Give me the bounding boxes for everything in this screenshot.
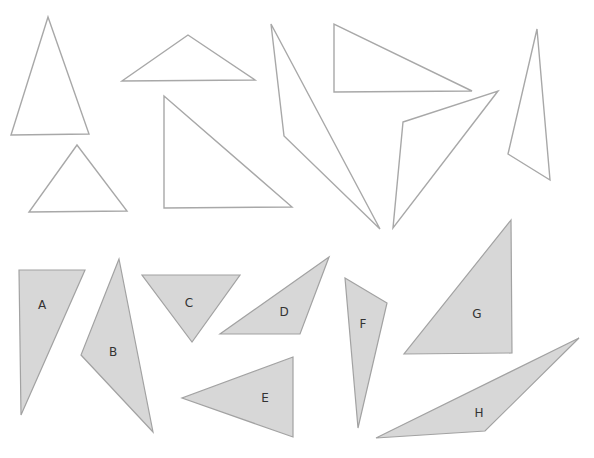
labeled-triangles-group [19, 220, 579, 438]
outline-triangle-7 [393, 91, 498, 228]
triangle-c-label: C [185, 297, 193, 309]
triangle-e [182, 357, 293, 437]
outline-triangles-group [11, 17, 550, 229]
triangle-g [404, 220, 512, 354]
outline-triangle-1 [11, 17, 89, 135]
outline-triangle-3 [122, 35, 255, 81]
triangle-f-label: F [360, 318, 367, 330]
triangle-f [345, 278, 387, 428]
triangle-d [220, 257, 329, 334]
triangle-h-label: H [474, 407, 483, 419]
outline-triangle-2 [29, 145, 127, 212]
triangle-b-label: B [109, 346, 117, 358]
outline-triangle-8 [508, 29, 550, 180]
triangles-canvas [0, 0, 594, 458]
triangle-e-label: E [261, 392, 269, 404]
triangle-a [19, 270, 85, 415]
triangle-g-label: G [472, 308, 481, 320]
triangle-a-label: A [38, 299, 46, 311]
triangle-d-label: D [279, 306, 288, 318]
outline-triangle-6 [334, 24, 472, 92]
outline-triangle-4 [164, 96, 292, 208]
